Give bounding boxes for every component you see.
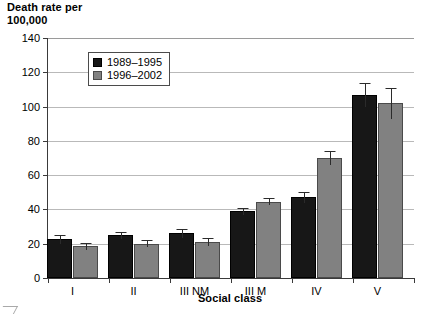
- error-bar-cap: [80, 243, 91, 244]
- error-bar-cap: [54, 235, 65, 236]
- page-corner-artifact: [0, 306, 18, 314]
- x-axis-tick: [109, 278, 110, 283]
- error-bar-cap: [176, 229, 187, 230]
- x-axis-tick: [292, 278, 293, 283]
- error-bar-cap: [202, 238, 213, 239]
- error-bar: [365, 83, 366, 107]
- legend: 1989–1995 1996–2002: [88, 52, 170, 86]
- error-bar: [269, 198, 270, 205]
- y-axis-tick-label: 0: [4, 273, 40, 284]
- y-axis-tick: [43, 72, 48, 73]
- x-axis-tick: [170, 278, 171, 283]
- y-axis-tick: [43, 209, 48, 210]
- bar: [256, 202, 281, 278]
- legend-item-1989-1995: 1989–1995: [93, 56, 162, 69]
- gridline: [48, 38, 414, 39]
- bar: [47, 239, 72, 278]
- error-bar: [208, 238, 209, 247]
- bar: [134, 244, 159, 278]
- y-axis-tick: [43, 38, 48, 39]
- error-bar-cap: [263, 198, 274, 199]
- bar: [378, 103, 403, 278]
- y-axis-tick-label: 20: [4, 239, 40, 250]
- y-axis-tick: [43, 175, 48, 176]
- error-bar: [60, 235, 61, 244]
- error-bar: [330, 151, 331, 165]
- bar: [195, 242, 220, 278]
- error-bar: [391, 88, 392, 119]
- error-bar-cap: [359, 83, 370, 84]
- black-swatch-icon: [93, 58, 102, 67]
- error-bar: [304, 192, 305, 202]
- y-axis-tick: [43, 141, 48, 142]
- x-axis-title: Social class: [47, 292, 413, 304]
- bar: [230, 211, 255, 278]
- bar: [73, 246, 98, 278]
- error-bar: [121, 232, 122, 239]
- legend-label: 1996–2002: [107, 70, 162, 81]
- x-axis-tick: [353, 278, 354, 283]
- y-axis-tick-label: 60: [4, 170, 40, 181]
- y-axis-title: Death rate per 100,000: [7, 1, 82, 27]
- legend-label: 1989–1995: [107, 57, 162, 68]
- x-axis-tick: [48, 278, 49, 283]
- bar-chart-figure: Death rate per 100,000 02040608010012014…: [0, 0, 424, 315]
- error-bar: [86, 243, 87, 250]
- bar: [108, 235, 133, 278]
- error-bar: [243, 208, 244, 215]
- error-bar-cap: [237, 208, 248, 209]
- bar: [291, 197, 316, 278]
- legend-item-1996-2002: 1996–2002: [93, 69, 162, 82]
- error-bar-cap: [324, 151, 335, 152]
- error-bar-cap: [298, 192, 309, 193]
- error-bar: [182, 229, 183, 238]
- error-bar-cap: [115, 232, 126, 233]
- y-axis-tick: [43, 107, 48, 108]
- error-bar-cap: [385, 88, 396, 89]
- bar: [169, 233, 194, 278]
- y-axis-tick-label: 100: [4, 102, 40, 113]
- y-axis-tick-label: 120: [4, 67, 40, 78]
- gray-swatch-icon: [93, 71, 102, 80]
- error-bar: [147, 240, 148, 247]
- y-axis-tick-label: 80: [4, 136, 40, 147]
- error-bar-cap: [141, 240, 152, 241]
- y-axis-tick-label: 140: [4, 33, 40, 44]
- bar: [352, 95, 377, 278]
- x-axis-tick: [231, 278, 232, 283]
- x-axis-tick: [414, 278, 415, 283]
- bar: [317, 158, 342, 278]
- y-axis-tick-label: 40: [4, 204, 40, 215]
